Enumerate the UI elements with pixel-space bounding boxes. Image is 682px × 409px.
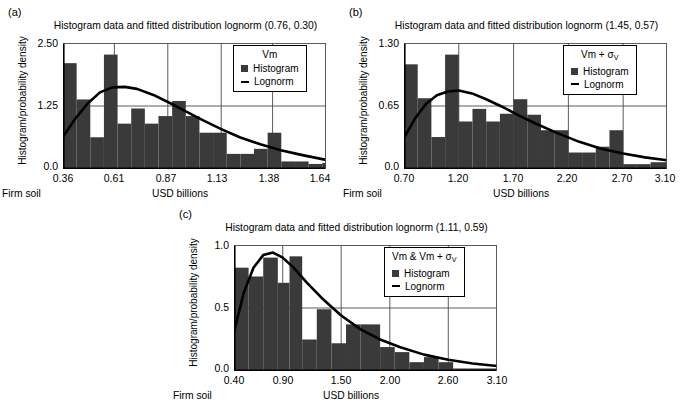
panel-c-xtick-4: 2.60 [428, 374, 468, 386]
panel-a: (a) Histogram data and fitted distributi… [0, 0, 341, 205]
panel-c-xtick-3: 2.00 [370, 374, 410, 386]
panel-c-legend-row-lognorm: Lognorm [392, 280, 457, 293]
panel-c-legend-title: Vm & Vm + σV [392, 250, 457, 266]
panel-b-legend-histogram-label: Histogram [583, 65, 629, 78]
panel-b-legend-title-main: Vm + σ [581, 49, 614, 60]
panel-c-xtick-2: 1.50 [321, 374, 361, 386]
panel-a-legend-title: Vm [241, 48, 299, 61]
panel-b-xtick-5: 3.10 [645, 172, 682, 184]
panel-b-legend-row-lognorm: Lognorm [571, 78, 629, 91]
histogram-swatch-icon [392, 270, 399, 277]
panel-c-legend-histogram-label: Histogram [404, 267, 450, 280]
panel-b-foot-left: Firm soil [343, 188, 382, 199]
panel-b-ytick-1: 0.65 [359, 99, 399, 111]
panel-c-xtick-1: 0.90 [263, 374, 303, 386]
panel-b-label: (b) [349, 6, 362, 18]
panel-a-ytick-2: 2.50 [18, 37, 58, 49]
panel-b-xtick-2: 1.70 [493, 172, 533, 184]
panel-a-ytick-0: 0.0 [18, 160, 58, 172]
panel-c-foot-left: Firm soil [173, 390, 212, 401]
panel-b-legend-lognorm-label: Lognorm [584, 78, 623, 91]
panel-a-xtick-0: 0.36 [43, 172, 83, 184]
panel-a-xtick-5: 1.64 [300, 172, 340, 184]
histogram-swatch-icon [241, 65, 248, 72]
panel-a-legend: Vm Histogram Lognorm [233, 45, 307, 92]
histogram-swatch-icon [571, 68, 578, 75]
panel-a-legend-lognorm-label: Lognorm [254, 75, 293, 88]
panel-a-legend-row-histogram: Histogram [241, 62, 299, 75]
panel-a-legend-histogram-label: Histogram [253, 62, 299, 75]
panel-b-legend-row-histogram: Histogram [571, 65, 629, 78]
panel-b-xtick-1: 1.20 [438, 172, 478, 184]
panel-b-title: Histogram data and fitted distribution l… [375, 20, 678, 31]
panel-a-foot-left: Firm soil [2, 188, 41, 199]
panel-a-xtick-1: 0.61 [94, 172, 134, 184]
panel-c-legend-title-main: Vm & Vm + σ [392, 251, 452, 262]
panel-b-legend: Vm + σV Histogram Lognorm [563, 45, 637, 95]
panel-c-ytick-2: 1.0 [189, 239, 229, 251]
lognorm-line-icon [571, 83, 579, 85]
lognorm-line-icon [241, 81, 249, 83]
panel-b-legend-title-sub: V [614, 53, 619, 62]
panel-c-xlabel: USD billions [291, 390, 411, 401]
panel-a-xtick-4: 1.38 [249, 172, 289, 184]
panel-c-title: Histogram data and fitted distribution l… [205, 222, 508, 233]
panel-a-xtick-2: 0.87 [146, 172, 186, 184]
panel-a-legend-row-lognorm: Lognorm [241, 75, 299, 88]
panel-c-ytick-0: 0.0 [189, 362, 229, 374]
panel-c-legend-title-sub: V [452, 255, 457, 264]
panel-b-xtick-0: 0.70 [384, 172, 424, 184]
panel-b-legend-title: Vm + σV [571, 48, 629, 64]
panel-b-ytick-0: 0.0 [359, 160, 399, 172]
panel-c-ytick-1: 0.5 [189, 301, 229, 313]
panel-b-ytick-2: 1.30 [359, 37, 399, 49]
panel-c-legend: Vm & Vm + σV Histogram Lognorm [384, 247, 465, 297]
panel-c-legend-lognorm-label: Lognorm [405, 280, 444, 293]
panel-a-label: (a) [8, 6, 21, 18]
panel-a-xlabel: USD billions [120, 188, 240, 199]
panel-c: (c) Histogram data and fitted distributi… [171, 202, 512, 409]
panel-b-xtick-3: 2.20 [547, 172, 587, 184]
panel-c-xtick-5: 3.10 [477, 374, 517, 386]
panel-a-ytick-1: 1.25 [18, 99, 58, 111]
panel-a-title: Histogram data and fitted distribution l… [34, 20, 337, 31]
panel-c-legend-row-histogram: Histogram [392, 267, 457, 280]
panel-b-xtick-4: 2.70 [602, 172, 642, 184]
lognorm-line-icon [392, 285, 400, 287]
panel-b-xlabel: USD billions [461, 188, 581, 199]
panel-c-label: (c) [179, 208, 192, 220]
panel-b: (b) Histogram data and fitted distributi… [341, 0, 682, 205]
panel-a-xtick-3: 1.13 [197, 172, 237, 184]
panel-c-xtick-0: 0.40 [214, 374, 254, 386]
